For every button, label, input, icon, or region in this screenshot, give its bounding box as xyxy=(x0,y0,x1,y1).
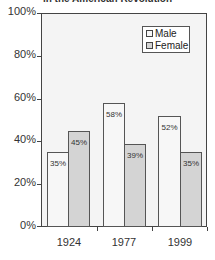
legend-swatch-female xyxy=(146,42,153,49)
x-tick-label: 1977 xyxy=(104,236,144,248)
legend-label: Male xyxy=(155,28,177,39)
bar-value-label: 35% xyxy=(181,159,201,168)
bar-male-1977: 58% xyxy=(103,103,125,227)
y-tick-label: 40% xyxy=(0,133,36,145)
y-tick-label: 20% xyxy=(0,176,36,188)
y-tick-label: 100% xyxy=(0,5,36,17)
bar-value-label: 58% xyxy=(104,110,124,119)
bar-value-label: 52% xyxy=(159,123,180,132)
bar-male-1924: 35% xyxy=(47,152,69,227)
legend-item-female: Female xyxy=(146,40,188,51)
legend-label: Female xyxy=(155,40,188,51)
y-tick-mark xyxy=(37,184,41,185)
legend-item-male: Male xyxy=(146,28,177,39)
bar-male-1999: 52% xyxy=(158,116,181,227)
y-tick-label: 80% xyxy=(0,48,36,60)
y-tick-mark xyxy=(37,226,41,227)
y-tick-mark xyxy=(37,99,41,100)
bar-value-label: 35% xyxy=(48,159,68,168)
bar-value-label: 45% xyxy=(69,138,89,147)
y-tick-label: 60% xyxy=(0,91,36,103)
bar-female-1977: 39% xyxy=(124,144,146,227)
x-tick-label: 1999 xyxy=(160,236,200,248)
chart-title: in the American Revolution xyxy=(0,0,215,4)
x-tick-mark xyxy=(97,227,98,231)
bar-female-1999: 35% xyxy=(180,152,202,227)
y-tick-mark xyxy=(37,56,41,57)
legend: Male Female xyxy=(142,26,190,53)
x-tick-mark xyxy=(207,227,208,231)
bar-value-label: 39% xyxy=(125,151,145,160)
x-tick-mark xyxy=(152,227,153,231)
y-tick-label: 0% xyxy=(0,219,36,231)
bar-female-1924: 45% xyxy=(68,131,90,227)
legend-swatch-male xyxy=(146,30,153,37)
y-tick-mark xyxy=(37,13,41,14)
y-tick-mark xyxy=(37,141,41,142)
x-tick-label: 1924 xyxy=(49,236,89,248)
